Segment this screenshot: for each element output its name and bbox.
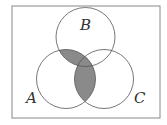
label-a: A bbox=[24, 89, 37, 107]
label-b: B bbox=[79, 16, 91, 34]
label-c: C bbox=[134, 89, 146, 107]
venn-diagram: B A C bbox=[0, 0, 167, 125]
